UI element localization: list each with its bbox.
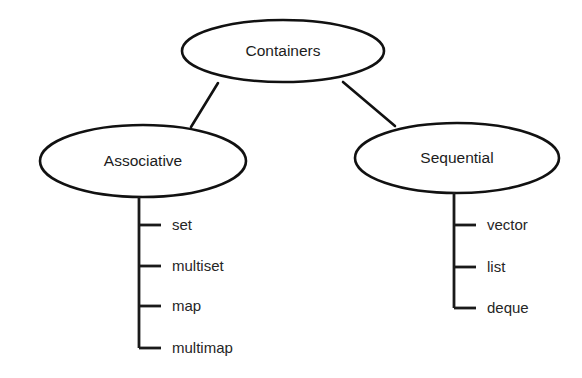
list-item[interactable]: set <box>139 216 193 233</box>
node-associative[interactable]: Associative <box>40 125 246 197</box>
list-item[interactable]: map <box>139 297 201 314</box>
node-sequential[interactable]: Sequential <box>355 123 559 193</box>
list-item[interactable]: multimap <box>139 339 233 356</box>
leaf-label-map: map <box>172 297 201 314</box>
leaf-label-vector: vector <box>487 216 528 233</box>
node-associative-label: Associative <box>104 152 182 169</box>
node-containers-label: Containers <box>246 42 321 59</box>
list-item[interactable]: vector <box>454 216 528 233</box>
list-item[interactable]: list <box>454 258 506 275</box>
connector-root-to-associative <box>191 83 218 127</box>
leaf-label-multimap: multimap <box>172 339 233 356</box>
containers-hierarchy-diagram: Containers Associative set multiset map <box>0 0 582 378</box>
diagram-canvas: Containers Associative set multiset map <box>0 0 582 378</box>
list-item[interactable]: deque <box>454 299 529 316</box>
leaf-label-set: set <box>172 216 193 233</box>
leaf-label-multiset: multiset <box>172 257 225 274</box>
connector-root-to-sequential <box>343 82 395 126</box>
node-containers[interactable]: Containers <box>182 20 384 82</box>
associative-leaf-group: set multiset map multimap <box>139 197 233 356</box>
node-sequential-label: Sequential <box>420 149 493 166</box>
leaf-label-deque: deque <box>487 299 529 316</box>
sequential-leaf-group: vector list deque <box>454 192 529 316</box>
list-item[interactable]: multiset <box>139 257 225 274</box>
leaf-label-list: list <box>487 258 506 275</box>
